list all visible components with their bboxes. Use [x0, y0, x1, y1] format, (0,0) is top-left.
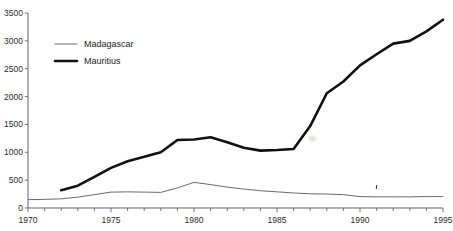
scan-smudge-artifact: [308, 135, 317, 142]
legend-label-mauritius: Mauritius: [84, 56, 121, 66]
y-tick-label: 3500: [4, 8, 23, 18]
x-tick-label: 1975: [102, 215, 121, 225]
x-tick-label: 1985: [268, 215, 287, 225]
y-tick-label: 1500: [4, 119, 23, 129]
y-tick-label: 500: [9, 175, 23, 185]
chart-canvas: 0500100015002000250030003500197019751980…: [0, 0, 453, 231]
x-tick-label: 1990: [351, 215, 370, 225]
y-tick-label: 2000: [4, 92, 23, 102]
y-tick-label: 3000: [4, 36, 23, 46]
x-tick-label: 1995: [434, 215, 453, 225]
line-chart: 0500100015002000250030003500197019751980…: [0, 0, 453, 231]
legend-label-madagascar: Madagascar: [84, 39, 134, 49]
series-line-madagascar: [28, 182, 443, 199]
x-tick-label: 1980: [185, 215, 204, 225]
x-tick-label: 1970: [19, 215, 38, 225]
y-tick-label: 2500: [4, 64, 23, 74]
y-tick-label: 1000: [4, 147, 23, 157]
y-tick-label: 0: [18, 203, 23, 213]
